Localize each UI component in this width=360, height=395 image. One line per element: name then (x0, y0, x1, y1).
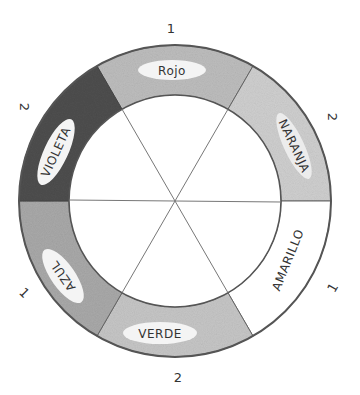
number-top: 1 (167, 21, 175, 36)
color-wheel-diagram: Rojo NARANJA AMARILLO VERDE AZUL VIOLETA… (0, 0, 360, 395)
number-upper-right: 2 (325, 113, 340, 121)
label-rojo: Rojo (158, 64, 186, 78)
label-verde: VERDE (138, 327, 181, 341)
number-upper-left: 2 (17, 103, 32, 111)
number-lower-left: 1 (16, 284, 32, 300)
number-bottom: 2 (174, 370, 182, 385)
number-lower-right: 1 (324, 280, 341, 295)
